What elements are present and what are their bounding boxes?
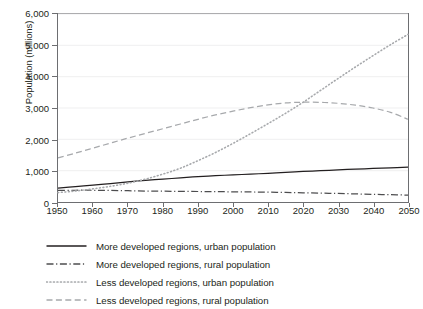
plot-area [57, 13, 409, 203]
y-axis-tick-label: 5,000 [3, 39, 49, 50]
legend-line-swatch [46, 240, 87, 252]
x-axis-tick-mark [303, 203, 304, 207]
legend-label: More developed regions, rural population [96, 259, 270, 270]
series-line-3 [58, 102, 408, 158]
x-axis-tick-label: 2050 [389, 205, 423, 216]
x-axis-tick-mark [57, 203, 58, 207]
x-axis-tick-mark [233, 203, 234, 207]
legend-line-swatch [46, 294, 87, 306]
y-axis-tick-label: 1,000 [3, 166, 49, 177]
x-axis-tick-mark [127, 203, 128, 207]
legend-label: Less developed regions, rural population [96, 295, 269, 306]
x-axis-tick-mark [339, 203, 340, 207]
population-line-chart: Population (millions) 01,0002,0003,0004,… [0, 0, 423, 309]
x-axis-tick-mark [198, 203, 199, 207]
legend-item[interactable]: More developed regions, urban population [46, 237, 386, 255]
y-axis-tick-label: 6,000 [3, 8, 49, 19]
x-axis-tick-mark [374, 203, 375, 207]
y-axis-tick-label: 2,000 [3, 134, 49, 145]
series-line-1 [58, 190, 408, 195]
x-axis-tick-mark [92, 203, 93, 207]
legend-label: Less developed regions, urban population [96, 277, 274, 288]
series-lines [58, 14, 408, 202]
series-line-0 [58, 167, 408, 188]
legend-label: More developed regions, urban population [96, 241, 276, 252]
y-axis-tick-label: 4,000 [3, 71, 49, 82]
legend-item[interactable]: Less developed regions, urban population [46, 273, 386, 291]
chart-legend: More developed regions, urban population… [46, 237, 386, 309]
y-axis-tick-label: 3,000 [3, 103, 49, 114]
x-axis-tick-mark [409, 203, 410, 207]
legend-item[interactable]: Less developed regions, rural population [46, 291, 386, 309]
legend-item[interactable]: More developed regions, rural population [46, 255, 386, 273]
legend-line-swatch [46, 258, 87, 270]
x-axis-tick-mark [268, 203, 269, 207]
legend-line-swatch [46, 276, 87, 288]
x-axis-tick-mark [163, 203, 164, 207]
